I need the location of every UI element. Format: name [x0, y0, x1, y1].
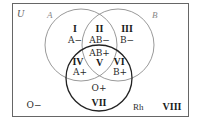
region-vii-roman: VII	[91, 97, 106, 108]
region-ii-roman: II	[96, 23, 104, 34]
region-iv-blood-type: A+	[72, 67, 87, 77]
region-ii-blood-type: AB−	[88, 35, 110, 45]
region-vii-blood-type: O+	[92, 83, 107, 93]
region-vi-roman: VI	[113, 56, 124, 67]
region-iii-blood-type: B−	[120, 35, 134, 45]
region-v-roman: V	[96, 57, 104, 68]
region-vi-blood-type: B+	[113, 67, 127, 77]
region-iii-roman: III	[121, 23, 133, 34]
region-viii-roman: VIII	[163, 101, 182, 112]
region-i-roman: I	[73, 23, 77, 34]
set-rh-label: Rh	[133, 102, 144, 112]
set-a-label: A	[46, 10, 53, 20]
region-i-blood-type: A−	[67, 35, 82, 45]
universe-label: U	[17, 8, 25, 19]
venn-diagram: U A B Rh I A− II AB− III B− AB+ V IV A+ …	[0, 0, 197, 127]
region-viii-blood-type: O−	[27, 100, 42, 110]
region-iv-roman: IV	[72, 56, 84, 67]
set-b-label: B	[152, 10, 158, 20]
